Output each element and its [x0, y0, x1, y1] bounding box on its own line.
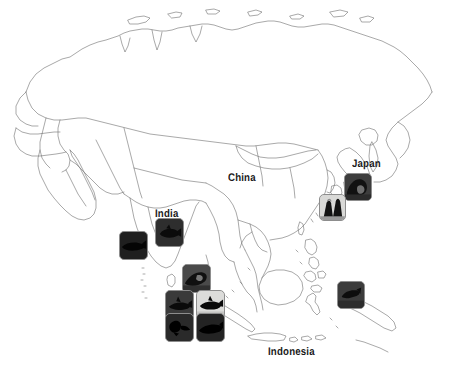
- marker-java-west[interactable]: [165, 313, 194, 342]
- wave-silhouette-icon: [345, 174, 371, 200]
- turtle-silhouette-icon: [166, 314, 193, 341]
- map-container: China Japan India Indonesia: [0, 0, 473, 369]
- label-indonesia: Indonesia: [268, 346, 315, 358]
- marker-papua[interactable]: [337, 281, 365, 309]
- marker-japan-volcano[interactable]: [319, 194, 346, 221]
- volcano-silhouette-icon: [320, 195, 345, 220]
- marker-japan-wave[interactable]: [344, 173, 372, 201]
- manta-silhouette-icon: [197, 314, 224, 341]
- label-china: China: [228, 172, 256, 184]
- asia-outline-map: [0, 0, 473, 369]
- fish-silhouette-icon: [156, 219, 183, 246]
- ray-silhouette-icon: [183, 265, 210, 292]
- marker-india-north[interactable]: [155, 218, 184, 247]
- marker-andaman[interactable]: [182, 264, 211, 293]
- whale-silhouette-icon: [120, 232, 147, 259]
- marker-java-east[interactable]: [196, 313, 225, 342]
- label-japan: Japan: [352, 158, 381, 170]
- coral-silhouette-icon: [338, 282, 364, 308]
- marker-arabian-sea[interactable]: [119, 231, 148, 260]
